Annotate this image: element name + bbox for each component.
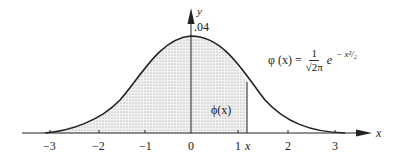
tick-label: 2 bbox=[285, 140, 291, 152]
tick-label: 1 bbox=[235, 140, 241, 152]
shaded-area bbox=[35, 36, 247, 133]
marked-x-label: x bbox=[245, 140, 250, 152]
x-axis-arrow bbox=[356, 130, 372, 137]
y-axis-label: y bbox=[197, 6, 202, 17]
formula-lhs: φ (x) = bbox=[268, 53, 302, 68]
formula-e: e bbox=[327, 53, 332, 68]
area-label: ϕ(x) bbox=[211, 104, 231, 116]
tick-label: −3 bbox=[43, 140, 56, 152]
tick-label: 3 bbox=[332, 140, 338, 152]
tick-label: −2 bbox=[92, 140, 105, 152]
formula-numerator: 1 bbox=[309, 48, 319, 61]
formula-denominator: √2π bbox=[306, 61, 323, 73]
density-formula: φ (x) = 1 √2π e − x²/₂ bbox=[268, 48, 357, 73]
formula-fraction: 1 √2π bbox=[306, 48, 323, 73]
x-axis-label: x bbox=[376, 127, 381, 139]
y-tick-label: .04 bbox=[194, 21, 209, 33]
formula-exponent: − x²/₂ bbox=[336, 49, 357, 59]
tick-label: −1 bbox=[139, 140, 152, 152]
tick-label: 0 bbox=[188, 140, 194, 152]
